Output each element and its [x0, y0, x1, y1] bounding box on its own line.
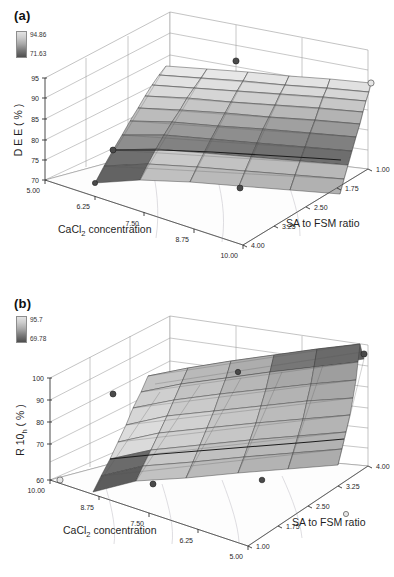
y-tick-label: 4.00 [251, 242, 265, 249]
design-point [110, 147, 116, 153]
z-tick-label: 60 [36, 477, 44, 484]
z-axis-title: D E E ( % ) [12, 104, 24, 157]
z-tick-label: 70 [36, 441, 44, 448]
z-axis-title: R 10h ( % ) [14, 404, 29, 455]
design-point [57, 477, 63, 483]
panel-b: (b) 95.7 69.78 [0, 288, 394, 577]
y-tick-label: 3.25 [346, 483, 360, 490]
panel-a: (a) 94.86 71.63 [0, 0, 394, 288]
x-tick-label: 5.00 [26, 187, 40, 194]
design-point [235, 369, 240, 374]
design-point [92, 180, 97, 185]
z-tick-label: 70 [31, 177, 39, 184]
y-tick-label: 2.50 [316, 503, 330, 510]
z-tick-label: 75 [31, 157, 39, 164]
x-axis-title: CaCl2 concentration [58, 223, 152, 238]
z-tick-label: 90 [31, 95, 39, 102]
z-tick-label: 100 [32, 375, 44, 382]
design-point [233, 58, 239, 64]
design-point [361, 351, 367, 357]
x-tick-label: 10.00 [27, 487, 45, 494]
design-point [237, 185, 243, 191]
z-axis-ticks: 100 90 80 70 60 [32, 375, 52, 484]
y-tick-label: 1.00 [376, 166, 390, 173]
y-tick-label: 2.50 [314, 204, 328, 211]
y-axis-title: SA to FSM ratio [292, 516, 366, 528]
design-point [368, 80, 374, 86]
panel-b-surface-plot-main: 100 90 80 70 60 R 10h ( % ) 10.00 8.75 7… [0, 288, 394, 577]
x-tick-label: 5.00 [229, 553, 243, 560]
y-tick-label: 1.00 [256, 543, 270, 550]
z-tick-label: 90 [36, 397, 44, 404]
panel-a-surface-plot: 95 90 85 80 75 70 D E E ( % ) 5.00 6.25 … [0, 0, 394, 288]
z-tick-label: 85 [31, 116, 39, 123]
x-tick-label: 6.25 [179, 537, 193, 544]
z-tick-label: 80 [36, 419, 44, 426]
design-point [110, 391, 116, 397]
x-axis-title: CaCl2 concentration [63, 524, 157, 539]
y-axis-title: SA to FSM ratio [286, 217, 360, 229]
y-tick-label: 1.75 [345, 185, 359, 192]
design-point [150, 481, 156, 487]
x-tick-label: 8.75 [175, 236, 189, 243]
z-tick-label: 95 [31, 75, 39, 82]
z-tick-label: 80 [31, 137, 39, 144]
y-tick-label: 4.00 [376, 463, 390, 470]
design-point [259, 477, 265, 483]
x-tick-label: 8.75 [80, 504, 94, 511]
x-tick-label: 6.25 [76, 203, 90, 210]
x-tick-label: 10.00 [220, 252, 238, 259]
